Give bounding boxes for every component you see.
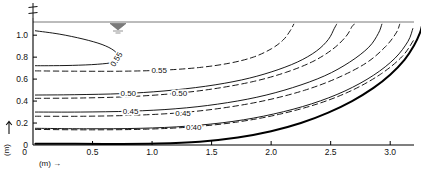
contour-label-0.50-2: 0.50 [120,89,136,98]
contour-0.40-solid [35,29,412,129]
x-tick-label-2.5: 2.5 [325,147,337,157]
y-axis-unit-label: (m) [2,144,11,156]
x-tick-label-2.0: 2.0 [265,147,277,157]
y-tick-label-1.0: 1.0 [16,30,28,40]
centerline-stroke-upper [29,7,38,8]
contour-plot-canvas: 00.51.01.52.02.53.000.20.40.60.81.0(m) →… [0,0,421,169]
x-tick-label-1.0: 1.0 [146,147,158,157]
x-tick-label-1.5: 1.5 [206,147,218,157]
x-tick-label-3.0: 3.0 [384,147,396,157]
contour-label-0.55-0: 0.55 [109,50,125,68]
y-tick-label-0.6: 0.6 [16,74,28,84]
contour-label-0.40-6: 0.40 [186,123,202,132]
y-axis-arrow-icon [6,121,12,134]
contour-0.45-dashed [35,24,399,116]
water-level-triangle-icon [110,24,126,31]
contour-0.55-solid-loop [35,31,118,66]
contour-label-0.45-4: 0.45 [123,107,139,116]
y-tick-label-0.4: 0.4 [16,96,28,106]
contour-0.55-dashed [35,24,293,71]
x-tick-label-0.5: 0.5 [87,147,99,157]
contour-0.50-solid [35,24,336,95]
y-tick-label-0: 0 [23,140,28,150]
x-axis-unit-label: (m) → [39,159,61,168]
contour-label-0.50-3: 0.50 [172,89,188,98]
contour-figure: 00.51.01.52.02.53.000.20.40.60.81.0(m) →… [0,0,421,169]
contour-0.50-dashed [35,24,354,98]
y-tick-label-0.8: 0.8 [16,52,28,62]
y-tick-label-0.2: 0.2 [16,118,28,128]
centerline-stroke-lower [29,13,38,14]
contour-label-0.45-5: 0.45 [175,109,191,118]
contour-label-0.55-1: 0.55 [151,66,167,75]
